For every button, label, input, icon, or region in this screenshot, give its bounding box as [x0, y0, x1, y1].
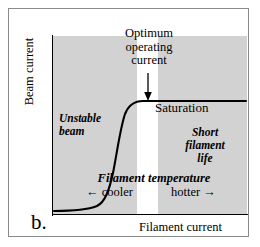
- hotter-direction-label: hotter →: [171, 186, 216, 200]
- optimum-label-line1: Optimum: [105, 27, 193, 41]
- short-life-line3: life: [177, 152, 233, 165]
- figure-frame: Optimum operating current Saturation Uns…: [8, 8, 249, 237]
- filament-temperature-label: Filament temperature: [83, 172, 225, 186]
- left-arrow-icon: ←: [86, 185, 99, 199]
- figure-panel-b: Optimum operating current Saturation Uns…: [0, 0, 260, 247]
- y-axis-line: [52, 35, 53, 216]
- y-axis-title: Beam current: [22, 17, 37, 127]
- short-filament-life-label: Short filament life: [177, 126, 233, 165]
- cooler-text: cooler: [102, 185, 133, 199]
- panel-letter: b.: [31, 212, 47, 233]
- optimum-label-line3: current: [105, 54, 193, 68]
- cooler-direction-label: ← cooler: [86, 186, 133, 200]
- optimum-operating-current-label: Optimum operating current: [105, 27, 193, 68]
- x-axis-line: [52, 214, 248, 215]
- unstable-beam-label: Unstable beam: [59, 112, 111, 138]
- unstable-label-line1: Unstable: [59, 112, 111, 125]
- right-arrow-icon: →: [203, 185, 216, 199]
- short-life-line2: filament: [177, 139, 233, 152]
- x-axis-title: Filament current: [139, 220, 222, 235]
- optimum-label-line2: operating: [105, 41, 193, 55]
- saturation-label: Saturation: [155, 101, 208, 115]
- short-life-line1: Short: [177, 126, 233, 139]
- hotter-text: hotter: [171, 185, 200, 199]
- unstable-label-line2: beam: [59, 125, 111, 138]
